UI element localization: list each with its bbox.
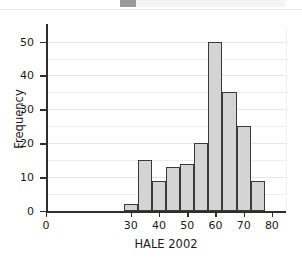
x-axis-tick: [272, 212, 273, 217]
x-axis-tick: [215, 212, 216, 217]
histogram-bar: [166, 167, 180, 211]
scan-artifact-strip: [136, 0, 286, 7]
x-axis-tick-label: 0: [31, 219, 61, 232]
x-axis-line: [46, 211, 286, 213]
scan-artifact-line: [0, 9, 302, 10]
x-axis-tick-label: 70: [229, 219, 259, 232]
y-axis-tick: [40, 177, 46, 178]
x-axis-tick: [244, 212, 245, 217]
scan-artifact-block: [120, 0, 136, 7]
bar-series: [46, 28, 286, 211]
plot-right-border: [286, 28, 287, 211]
x-axis-title: HALE 2002: [46, 237, 286, 251]
y-axis-tick-label: 50: [12, 36, 34, 49]
plot-area: [46, 28, 286, 211]
y-axis-tick-label: 10: [12, 171, 34, 184]
y-axis-tick: [40, 143, 46, 144]
y-axis-tick: [40, 42, 46, 43]
x-axis-tick: [131, 212, 132, 217]
x-axis-tick-label: 40: [144, 219, 174, 232]
y-axis-tick-label: 0: [12, 205, 34, 218]
histogram-bar: [180, 164, 194, 211]
histogram-bar: [251, 181, 265, 212]
histogram-bar: [222, 92, 236, 211]
histogram-chart: 01020304050 0304050607080 HALE 2002 Freq…: [0, 0, 302, 261]
y-axis-title: Frequency: [12, 74, 26, 164]
x-axis-tick: [46, 212, 47, 217]
y-axis-tick: [40, 75, 46, 76]
x-axis-tick-label: 30: [116, 219, 146, 232]
x-axis-tick-label: 80: [257, 219, 287, 232]
x-axis-tick-label: 60: [200, 219, 230, 232]
x-axis-tick: [187, 212, 188, 217]
histogram-bar: [138, 160, 152, 211]
y-axis-tick: [40, 109, 46, 110]
histogram-bar: [124, 204, 138, 211]
x-axis-tick: [159, 212, 160, 217]
y-axis-line: [46, 24, 48, 212]
histogram-bar: [152, 181, 166, 212]
histogram-bar: [237, 126, 251, 211]
histogram-bar: [194, 143, 208, 211]
x-axis-tick-label: 50: [172, 219, 202, 232]
histogram-bar: [208, 42, 222, 211]
